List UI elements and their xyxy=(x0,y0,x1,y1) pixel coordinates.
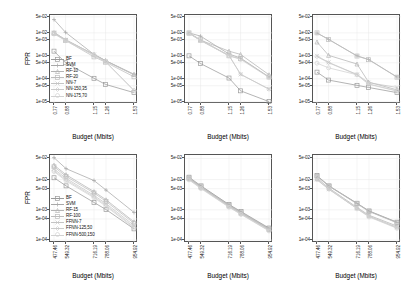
x-tick-mark xyxy=(93,242,94,244)
x-tick-label: 788.06 xyxy=(240,245,245,258)
x-axis-label: Budget (Mbits) xyxy=(184,272,272,279)
y-tick-label: 1e-04 xyxy=(161,237,182,242)
chart-panel-bottom-right: 5e-021e-025e-031e-035e-041e-04477.46549.… xyxy=(265,141,403,282)
y-tick-label: 5e-04 xyxy=(289,59,310,64)
y-axis-label: FPR xyxy=(24,38,31,78)
circle-marker xyxy=(56,94,60,98)
x-tick-label: 716.19 xyxy=(228,245,233,258)
y-tick-mark xyxy=(182,62,184,63)
y-tick-label: 5e-02 xyxy=(161,155,182,160)
series-layer xyxy=(185,15,273,104)
y-tick-label: 1e-02 xyxy=(26,29,47,34)
chart-panel-top-right: 5e-021e-025e-031e-035e-041e-045e-051e-05… xyxy=(265,0,403,141)
x-tick-mark xyxy=(133,103,134,105)
y-tick-mark xyxy=(182,101,184,102)
x-tick-mark xyxy=(328,103,329,105)
x-tick-label: 788.06 xyxy=(105,245,110,258)
y-tick-mark xyxy=(310,39,312,40)
y-tick-label: 1e-05 xyxy=(161,98,182,103)
chart-panel-top-left: 5e-021e-025e-031e-035e-041e-045e-051e-05… xyxy=(0,0,140,141)
x-tick-label: 0.88 xyxy=(64,106,69,115)
y-tick-label: 5e-02 xyxy=(289,13,310,18)
y-tick-label: 5e-02 xyxy=(26,13,47,18)
y-tick-mark xyxy=(47,209,49,210)
chart-panel-top-middle: 5e-021e-025e-031e-035e-041e-045e-051e-05… xyxy=(140,0,280,141)
y-tick-label: 1e-03 xyxy=(161,52,182,57)
y-tick-label: 1e-03 xyxy=(161,206,182,211)
x-tick-label: 1.26 xyxy=(104,106,109,115)
figure-canvas: 5e-021e-025e-031e-035e-041e-045e-051e-05… xyxy=(0,0,403,282)
x-tick-mark xyxy=(53,103,54,105)
diamond-marker xyxy=(56,87,60,91)
y-tick-mark xyxy=(310,62,312,63)
y-tick-mark xyxy=(310,78,312,79)
plus-marker xyxy=(56,202,60,206)
chart-panel-bottom-middle: 5e-021e-025e-031e-035e-041e-04477.46549.… xyxy=(140,141,280,282)
y-tick-mark xyxy=(182,209,184,210)
y-tick-mark xyxy=(47,55,49,56)
y-tick-mark xyxy=(310,55,312,56)
y-tick-mark xyxy=(182,85,184,86)
series-layer xyxy=(50,155,138,243)
y-tick-label: 1e-04 xyxy=(289,237,310,242)
x-tick-label: 0.77 xyxy=(316,106,321,115)
y-tick-mark xyxy=(310,85,312,86)
y-tick-mark xyxy=(182,179,184,180)
x-tick-mark xyxy=(188,103,189,105)
y-tick-label: 5e-04 xyxy=(289,215,310,220)
x-tick-label: 549.32 xyxy=(328,245,333,258)
y-tick-mark xyxy=(310,32,312,33)
x-tick-label: 477.46 xyxy=(316,245,321,258)
square-marker xyxy=(56,57,60,61)
x-tick-mark xyxy=(316,242,317,244)
chart-panel-bottom-left: 5e-021e-025e-031e-035e-041e-04477.46549.… xyxy=(0,141,140,282)
y-tick-label: 5e-03 xyxy=(161,36,182,41)
triangle-marker xyxy=(56,208,60,212)
x-tick-label: 549.32 xyxy=(200,245,205,258)
y-tick-mark xyxy=(310,239,312,240)
x-tick-mark xyxy=(356,103,357,105)
y-tick-label: 5e-03 xyxy=(289,185,310,190)
y-tick-label: 5e-02 xyxy=(26,155,47,160)
x-tick-mark xyxy=(188,242,189,244)
y-tick-mark xyxy=(47,16,49,17)
y-tick-mark xyxy=(310,218,312,219)
y-tick-label: 5e-05 xyxy=(161,82,182,87)
x-tick-label: 1.26 xyxy=(367,106,372,115)
y-tick-mark xyxy=(47,157,49,158)
y-tick-label: 5e-05 xyxy=(289,82,310,87)
y-tick-label: 5e-04 xyxy=(161,215,182,220)
cross-marker xyxy=(56,220,60,224)
x-tick-label: 0.77 xyxy=(53,106,58,115)
y-axis-label: FPR xyxy=(24,178,31,218)
x-tick-label: 0.88 xyxy=(327,106,332,115)
series-layer xyxy=(313,15,401,104)
y-tick-label: 1e-02 xyxy=(161,29,182,34)
square-marker xyxy=(56,196,60,200)
y-tick-label: 1e-03 xyxy=(289,52,310,57)
plot-area xyxy=(312,154,400,242)
x-tick-mark xyxy=(396,103,397,105)
circle-marker xyxy=(54,92,61,99)
x-tick-label: 1.15 xyxy=(93,106,98,115)
y-tick-label: 5e-03 xyxy=(289,36,310,41)
legend-item-label: FFNN-500,150 xyxy=(66,232,95,238)
x-tick-mark xyxy=(93,103,94,105)
y-tick-mark xyxy=(182,55,184,56)
y-tick-mark xyxy=(310,179,312,180)
y-tick-label: 1e-04 xyxy=(161,75,182,80)
x-tick-label: 477.46 xyxy=(53,245,58,258)
x-tick-mark xyxy=(228,103,229,105)
y-tick-mark xyxy=(310,101,312,102)
y-tick-label: 1e-04 xyxy=(26,237,47,242)
x-tick-label: 1.53 xyxy=(396,106,401,115)
x-tick-label: 716.19 xyxy=(93,245,98,258)
x-tick-mark xyxy=(200,103,201,105)
x-tick-label: 0.77 xyxy=(188,106,193,115)
x-tick-mark xyxy=(105,103,106,105)
y-tick-label: 5e-04 xyxy=(161,59,182,64)
y-tick-mark xyxy=(47,62,49,63)
series-layer xyxy=(313,155,401,243)
x-tick-mark xyxy=(65,242,66,244)
y-tick-mark xyxy=(47,32,49,33)
